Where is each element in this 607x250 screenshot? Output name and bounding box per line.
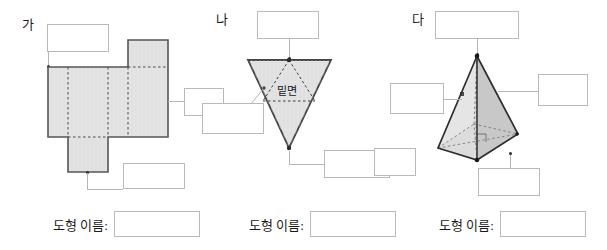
da-far-left-blank[interactable]: [374, 148, 416, 176]
na-name-row: 도형 이름:: [249, 211, 396, 237]
panel-da: 다: [402, 0, 607, 250]
ga-bottom-leader-v: [87, 173, 88, 189]
na-name-blank[interactable]: [310, 211, 396, 237]
ga-bottom-leader-h: [87, 189, 123, 190]
na-bottom-leader-h: [289, 164, 324, 165]
ga-name-row: 도형 이름:: [53, 211, 200, 237]
da-bottom-leader-v: [510, 155, 511, 168]
da-name-row: 도형 이름:: [439, 211, 586, 237]
da-name-blank[interactable]: [500, 211, 586, 237]
ga-name-blank[interactable]: [114, 211, 200, 237]
na-name-label: 도형 이름:: [249, 215, 304, 234]
ga-bottom-blank[interactable]: [123, 163, 185, 189]
da-left-blank[interactable]: [390, 83, 444, 114]
da-right-blank[interactable]: [538, 74, 588, 106]
ga-name-label: 도형 이름:: [53, 215, 108, 234]
na-bottom-leader-v: [289, 151, 290, 164]
da-left-leader: [444, 99, 462, 100]
ga-right-leader: [168, 101, 184, 102]
panel-na: 나: [202, 0, 402, 250]
da-right-leader: [498, 91, 538, 92]
na-left-blank[interactable]: [202, 103, 264, 134]
da-name-label: 도형 이름:: [439, 215, 494, 234]
panel-ga: 가: [0, 0, 202, 250]
da-bottom-blank[interactable]: [478, 168, 540, 196]
